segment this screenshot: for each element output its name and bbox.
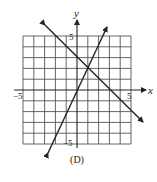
x-tick-neg5: −5: [13, 91, 23, 101]
y-tick-5: 5: [69, 32, 74, 42]
figure-caption: (D): [70, 154, 84, 166]
y-axis-label: y: [73, 7, 79, 19]
x-axis-label: x: [147, 84, 153, 96]
y-tick-neg5: −5: [63, 138, 73, 148]
descending-line: [45, 25, 143, 122]
coordinate-plane-figure: x y −5 5 5 −5 (D): [0, 0, 157, 182]
x-tick-5: 5: [127, 91, 132, 101]
